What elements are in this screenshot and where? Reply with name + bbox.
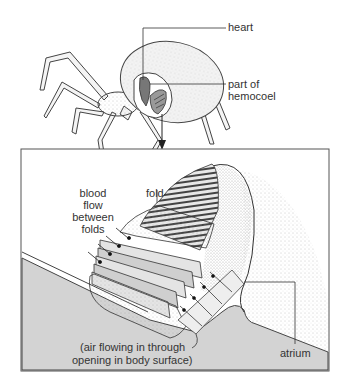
label-hemocoel-line2: hemocoel [228,90,276,102]
detail-box [21,149,329,371]
label-air-line2: opening in body surface) [72,354,192,366]
spider-illustration [40,28,231,166]
label-hemocoel-line1: part of [228,78,259,90]
label-blood-line3: between [68,211,118,223]
label-blood-line1: blood [68,187,118,199]
label-heart: heart [228,21,253,33]
label-blood-line4: folds [68,223,118,235]
book-lung-diagram: heart part of hemocoel blood flow betwee… [0,0,344,385]
label-fold: fold [146,187,164,199]
label-air-line1: (air flowing in through [80,341,185,353]
label-blood-line2: flow [68,199,118,211]
label-atrium: atrium [280,347,311,359]
